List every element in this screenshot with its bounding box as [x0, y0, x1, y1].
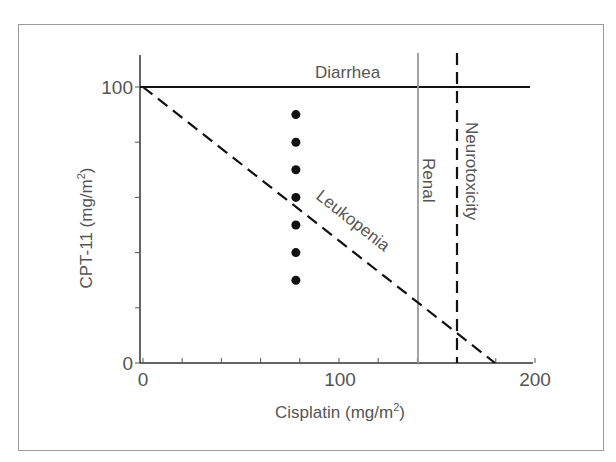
dose-point [291, 138, 300, 147]
y-axis-title: CPT-11 (mg/m2) [75, 167, 96, 288]
x-tick-label-200: 200 [519, 369, 551, 390]
diarrhea-label: Diarrhea [315, 63, 381, 82]
chart-plot: 0 100 200 0 100 Cisplatin (mg/m2) CPT-11… [0, 0, 616, 462]
dose-point [291, 193, 300, 202]
y-tick-label-0: 0 [122, 353, 133, 374]
x-axis-title: Cisplatin (mg/m2) [275, 401, 405, 422]
dose-point [291, 221, 300, 230]
leukopenia-label: Leukopenia [313, 186, 394, 255]
dose-point [291, 276, 300, 285]
renal-label: Renal [419, 158, 438, 202]
dose-point [291, 165, 300, 174]
dose-points [291, 110, 300, 285]
y-tick-label-100: 100 [101, 77, 133, 98]
x-tick-label-0: 0 [138, 369, 149, 390]
dose-point [291, 248, 300, 257]
neurotoxicity-label: Neurotoxicity [462, 122, 481, 221]
leukopenia-line [143, 87, 495, 363]
x-tick-label-100: 100 [324, 369, 356, 390]
dose-point [291, 110, 300, 119]
